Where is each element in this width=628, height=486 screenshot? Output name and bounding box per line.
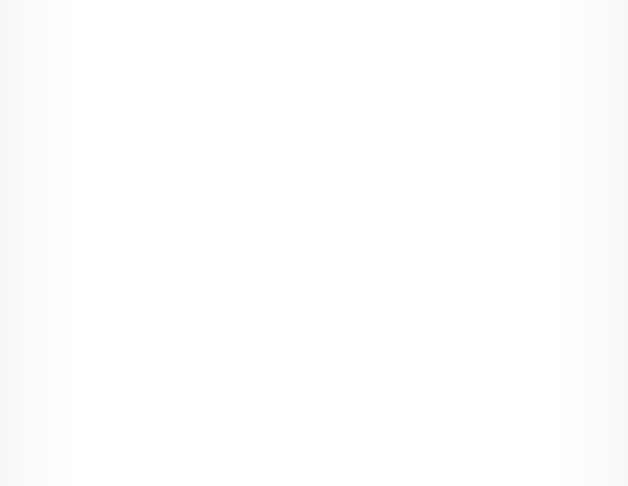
resistor-b-body <box>201 331 303 395</box>
network-boundary-label-text: C <box>453 50 467 74</box>
resistor-a-label-base: R <box>230 54 245 78</box>
resistor-7-body <box>445 205 545 270</box>
resistor-b-label-subscript: B <box>245 309 254 324</box>
resistor-3-label: R3 <box>233 177 255 201</box>
resistor-3-label-subscript: 3 <box>248 189 255 204</box>
circuit-schematic-svg <box>0 0 628 486</box>
resistor-3-label-base: R <box>233 175 248 199</box>
resistor-a-body <box>201 85 303 150</box>
resistor-7-label-subscript: 7 <box>492 179 499 194</box>
resistor-7-label-base: R <box>477 165 492 189</box>
resistor-a-label: RA <box>230 56 255 80</box>
resistor-b-label: RB <box>230 297 255 321</box>
network-boundary-label: C <box>453 52 467 73</box>
c-label-leader-line <box>414 66 448 89</box>
resistor-b-label-base: R <box>230 295 245 319</box>
diagram-canvas: RA R3 RB R7 C <box>0 0 628 486</box>
resistor-3-body <box>201 212 303 276</box>
resistor-7-label: R7 <box>477 167 499 191</box>
resistor-a-label-subscript: A <box>245 68 255 83</box>
